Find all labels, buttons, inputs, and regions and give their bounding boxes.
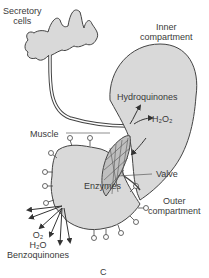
h2o-label: H₂O: [2, 240, 74, 250]
outer-compartment-label-line1: Outer: [148, 196, 201, 206]
enzymes-label: Enzymes: [84, 181, 121, 191]
outer-compartment-label: Outer compartment: [148, 196, 201, 216]
products-label: O₂ H₂O Benzoquinones: [2, 230, 74, 260]
inner-compartment-label-line2: compartment: [140, 32, 193, 42]
inner-compartment-label: Inner compartment: [140, 22, 193, 42]
o2-label: O₂: [2, 230, 74, 240]
inner-compartment-label-line1: Inner: [140, 22, 193, 32]
panel-label: C: [100, 267, 107, 277]
muscle-label: Muscle: [30, 129, 59, 139]
benzoquinones-label: Benzoquinones: [2, 250, 74, 260]
hydroquinones-label: Hydroquinones: [117, 92, 178, 102]
secretory-cells-label: Secretory cells: [3, 6, 42, 26]
h2o2-label: H₂O₂: [152, 114, 173, 124]
outer-compartment-label-line2: compartment: [148, 206, 201, 216]
secretory-cells-label-line1: Secretory: [3, 6, 42, 16]
secretory-cells-label-line2: cells: [3, 16, 42, 26]
valve-label: Valve: [156, 169, 178, 179]
